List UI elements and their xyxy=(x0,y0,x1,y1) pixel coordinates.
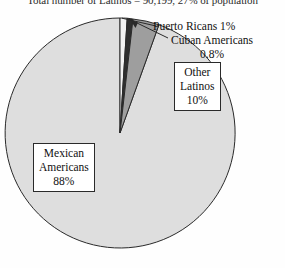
label-cuban-americans: Cuban Americans 0.8% xyxy=(171,34,253,61)
label-mexican-americans: Mexican Americans 88% xyxy=(33,143,95,192)
label-mexican-americans-line2: Americans xyxy=(39,160,89,174)
label-cuban-americans-pct: 0.8% xyxy=(171,48,253,61)
label-mexican-americans-pct: 88% xyxy=(39,174,89,188)
label-other-latinos-pct: 10% xyxy=(180,93,215,107)
chart-caption: Total number of Latinos = 90,199, 27% of… xyxy=(0,0,285,7)
label-cuban-americans-name: Cuban Americans xyxy=(171,34,253,47)
label-puerto-ricans-text: Puerto Ricans 1% xyxy=(153,20,235,33)
label-other-latinos-line1: Other xyxy=(180,65,215,79)
pie-chart-figure: Total number of Latinos = 90,199, 27% of… xyxy=(0,0,285,268)
label-other-latinos-line2: Latinos xyxy=(180,79,215,93)
label-mexican-americans-line1: Mexican xyxy=(39,146,89,160)
label-puerto-ricans: Puerto Ricans 1% xyxy=(153,20,235,33)
label-other-latinos: Other Latinos 10% xyxy=(174,62,221,111)
